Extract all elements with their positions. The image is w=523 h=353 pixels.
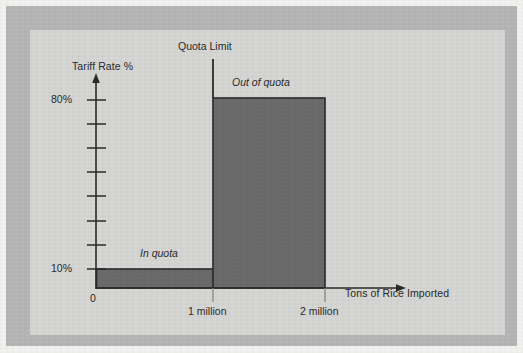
bar-label-out-of-quota: Out of quota	[232, 76, 290, 88]
bar-out-of-quota	[213, 98, 325, 288]
y-axis-title: Tariff Rate %	[72, 60, 133, 72]
x-axis-title: Tons of Rice Imported	[345, 287, 449, 299]
quota-limit-label: Quota Limit	[178, 40, 232, 52]
y-tick-label-80: 80%	[51, 93, 72, 105]
y-axis-arrowhead	[92, 73, 100, 83]
x-tick-label-0: 0	[90, 292, 96, 304]
y-tick-label-10: 10%	[51, 262, 72, 274]
scan-background: Tariff Rate % Tons of Rice Imported Quot…	[0, 0, 523, 353]
x-axis-ticks	[213, 288, 325, 302]
x-tick-label-1-million: 1 million	[188, 305, 227, 317]
x-tick-label-2-million: 2 million	[300, 305, 339, 317]
tariff-quota-chart-svg	[0, 0, 523, 353]
chart-plot-area: Tariff Rate % Tons of Rice Imported Quot…	[0, 0, 523, 353]
bar-label-in-quota: In quota	[140, 247, 178, 259]
bar-in-quota	[97, 269, 214, 288]
